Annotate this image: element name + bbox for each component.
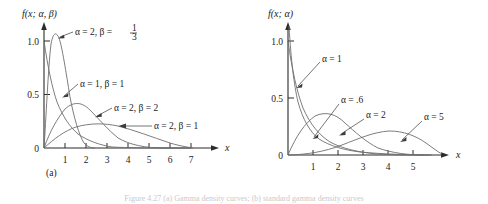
x-tick-label-a-2: 3	[105, 155, 110, 165]
y-tick-label-b-2: 0	[278, 151, 283, 161]
x-tick-label-b-1: 2	[336, 162, 341, 172]
x-axis-arrowhead-b	[441, 152, 449, 158]
x-tick-label-a-1: 2	[84, 155, 89, 165]
x-tick-label-b-4: 5	[411, 162, 416, 172]
y-axis-arrowhead-b	[285, 22, 291, 30]
leader-b-4	[402, 121, 422, 140]
panel-a-plot: 1.0 0.5 0 1 2 3 4 5 6 7 f(x; α, β) x α =…	[0, 0, 244, 175]
y-axis-label-b: f(x; α)	[268, 8, 294, 20]
x-tick-label-a-6: 7	[189, 155, 194, 165]
y-axis-arrowhead-a	[41, 22, 47, 30]
annotation-a-0-text: α = 2, β =	[75, 27, 112, 37]
leader-a-2	[64, 84, 78, 96]
figure-caption: Figure 4.27 (a) Gamma density curves; (b…	[0, 194, 488, 203]
x-axis-label-b: x	[455, 149, 461, 160]
x-tick-label-a-3: 4	[126, 155, 131, 165]
leader-a-3-arrow	[95, 113, 102, 117]
panel-b: 1.0 0.5 0 1 2 3 4 5 f(x; α) x α = 1 α = …	[244, 0, 488, 175]
annotation-a-2: α = 2, β = 2	[114, 103, 159, 113]
leader-b-1	[298, 62, 320, 86]
panel-a: 1.0 0.5 0 1 2 3 4 5 6 7 f(x; α, β) x α =…	[0, 0, 244, 175]
leader-a-1-arrow	[58, 35, 65, 39]
curve-b-alpha-0.6	[289, 26, 429, 155]
annotation-b-3: α = 5	[424, 112, 444, 122]
panel-letter-a: (a)	[46, 168, 57, 178]
annotation-a-0-frac-den: 3	[132, 32, 137, 42]
curve-b-alpha-5	[288, 131, 442, 155]
leader-a-4-arrow	[119, 123, 127, 128]
x-tick-label-b-2: 3	[361, 162, 366, 172]
x-tick-label-b-0: 1	[311, 162, 316, 172]
annotation-a-0: α = 2, β = 1 3	[75, 23, 137, 42]
figure-gamma-density-curves: 1.0 0.5 0 1 2 3 4 5 6 7 f(x; α, β) x α =…	[0, 0, 488, 204]
x-tick-label-a-5: 6	[168, 155, 173, 165]
y-tick-label-b-0: 1.0	[271, 37, 283, 47]
leader-a-2-arrow	[62, 93, 69, 98]
annotation-a-1: α = 1, β = 1	[80, 79, 125, 89]
x-axis-arrowhead-a	[211, 145, 219, 151]
x-tick-label-a-0: 1	[63, 155, 68, 165]
x-tick-label-a-4: 5	[147, 155, 152, 165]
annotation-b-0: α = 1	[322, 54, 342, 64]
curve-b-alpha-2	[288, 114, 424, 155]
y-axis-label-a: f(x; α, β)	[22, 8, 58, 20]
y-tick-label-a-1: 0.5	[27, 90, 39, 100]
leader-b-4-arrow	[400, 137, 407, 142]
annotation-b-2: α = 2	[366, 110, 386, 120]
annotation-a-3: α = 2, β = 1	[154, 121, 199, 131]
y-tick-label-a-0: 1.0	[27, 37, 39, 47]
panel-b-plot: 1.0 0.5 0 1 2 3 4 5 f(x; α) x α = 1 α = …	[244, 0, 488, 175]
y-tick-label-a-2: 0	[34, 144, 39, 154]
x-tick-label-b-3: 4	[386, 162, 391, 172]
y-tick-label-b-1: 0.5	[271, 94, 283, 104]
leader-b-2	[314, 104, 339, 137]
annotation-b-1: α = .6	[341, 95, 363, 105]
x-axis-label-a: x	[224, 142, 230, 153]
